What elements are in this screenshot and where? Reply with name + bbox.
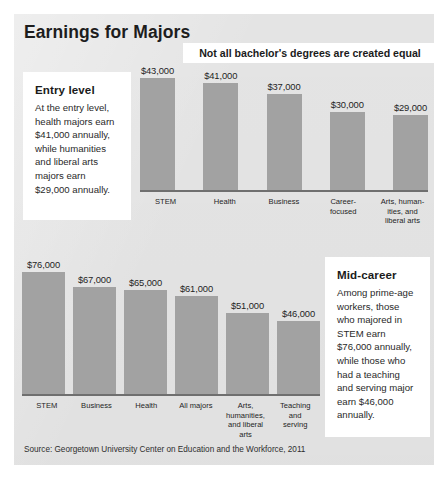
callout-mid-body: Among prime-age workers, those who major… — [337, 286, 418, 422]
chart-entry-level: $43,000$41,000$37,000$30,000$29,000 STEM… — [140, 64, 428, 232]
bar-rect — [393, 115, 428, 192]
bar-column: $37,000 — [267, 64, 302, 192]
callout-mid-heading: Mid-career — [337, 268, 418, 281]
chart-entry-bars: $43,000$41,000$37,000$30,000$29,000 — [140, 64, 428, 192]
bar-rect — [124, 290, 167, 396]
infographic-root: Earnings for Majors Not all bachelor's d… — [0, 0, 448, 477]
bar-column: $65,000 — [124, 258, 167, 396]
bar-value-label: $29,000 — [394, 102, 427, 113]
chart-entry-plot-area: $43,000$41,000$37,000$30,000$29,000 — [140, 64, 428, 192]
bar-column: $43,000 — [140, 64, 175, 192]
bar-rect — [267, 94, 302, 192]
category-label: Arts, human-ities, andliberal arts — [377, 197, 428, 226]
source-note: Source: Georgetown University Center on … — [24, 445, 305, 454]
bar-value-label: $76,000 — [27, 259, 60, 270]
category-label: STEM — [140, 197, 191, 207]
category-label: Business — [72, 401, 122, 411]
category-label: All majors — [171, 401, 221, 411]
bar-value-label: $61,000 — [180, 283, 213, 294]
callout-mid-career: Mid-career Among prime-age workers, thos… — [325, 257, 430, 437]
bar-rect — [140, 78, 175, 192]
bar-rect — [330, 112, 365, 192]
bar-column: $46,000 — [277, 258, 320, 396]
subtitle-banner: Not all bachelor's degrees are created e… — [183, 43, 437, 63]
category-label: Business — [259, 197, 310, 207]
bar-value-label: $65,000 — [129, 277, 162, 288]
bar-column: $61,000 — [175, 258, 218, 396]
category-label: Career-focused — [318, 197, 369, 216]
bar-column: $29,000 — [393, 64, 428, 192]
page-title: Earnings for Majors — [24, 22, 190, 43]
bar-value-label: $51,000 — [231, 300, 264, 311]
chart-mid-plot-area: $76,000$67,000$65,000$61,000$51,000$46,0… — [22, 258, 320, 396]
subtitle-text: Not all bachelor's degrees are created e… — [199, 47, 421, 59]
bar-column: $67,000 — [73, 258, 116, 396]
category-label: Teachingandserving — [270, 401, 320, 430]
bar-rect — [73, 287, 116, 396]
bar-rect — [203, 83, 238, 192]
bar-column: $41,000 — [203, 64, 238, 192]
bar-rect — [226, 313, 269, 396]
bar-value-label: $46,000 — [282, 308, 315, 319]
category-label: Health — [199, 197, 250, 207]
bar-column: $51,000 — [226, 258, 269, 396]
chart-entry-category-labels: STEMHealthBusinessCareer-focusedArts, hu… — [140, 192, 428, 232]
bar-rect — [277, 321, 320, 396]
bar-value-label: $43,000 — [141, 65, 174, 76]
bar-column: $30,000 — [330, 64, 365, 192]
bar-value-label: $41,000 — [204, 70, 237, 81]
category-label: Health — [121, 401, 171, 411]
callout-entry-level: Entry level At the entry level, health m… — [23, 72, 131, 220]
category-label: STEM — [22, 401, 72, 411]
chart-mid-bars: $76,000$67,000$65,000$61,000$51,000$46,0… — [22, 258, 320, 396]
callout-entry-heading: Entry level — [35, 83, 119, 96]
bar-rect — [22, 272, 65, 396]
bar-column: $76,000 — [22, 258, 65, 396]
bar-rect — [175, 296, 218, 396]
callout-entry-body: At the entry level, health majors earn $… — [35, 101, 119, 196]
chart-mid-category-labels: STEMBusinessHealthAll majorsArts,humanit… — [22, 396, 320, 436]
bar-value-label: $67,000 — [78, 274, 111, 285]
bar-value-label: $30,000 — [331, 99, 364, 110]
category-label: Arts,humanities,and liberalarts — [221, 401, 271, 440]
bar-value-label: $37,000 — [267, 81, 300, 92]
chart-mid-career: $76,000$67,000$65,000$61,000$51,000$46,0… — [22, 258, 320, 436]
